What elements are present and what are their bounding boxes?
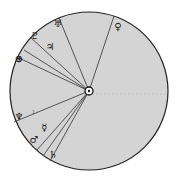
mercury-icon: ☿ xyxy=(41,122,47,133)
saturn-icon: ♄ xyxy=(49,149,58,160)
mars-icon: ♂ xyxy=(30,134,39,145)
neptune-icon: ♆ xyxy=(15,111,24,122)
sun-dot xyxy=(88,90,90,92)
venus-icon: ♀ xyxy=(114,21,121,32)
small-mark: 1 xyxy=(32,109,35,115)
earth-icon: ⊕ xyxy=(15,53,23,64)
uranus-icon: ♅ xyxy=(54,18,63,29)
jupiter-icon: ♃ xyxy=(46,41,55,52)
planet-position-diagram: ♅ ♀ ♇ ♃ ⊕ ♆ ☿ ♂ ♄ 1 xyxy=(0,0,176,185)
pluto-icon: ♇ xyxy=(31,30,40,41)
